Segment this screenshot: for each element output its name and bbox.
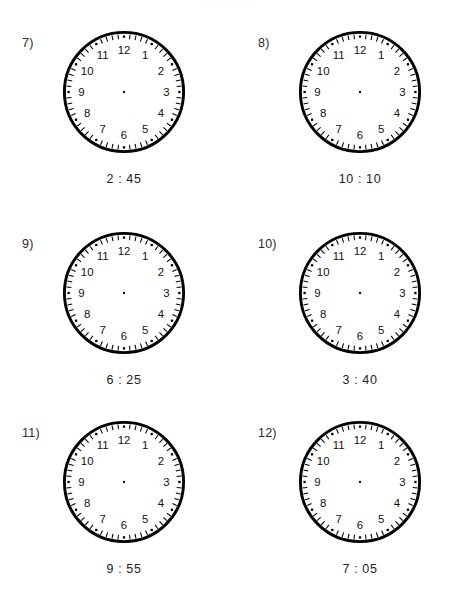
- minute-tick: [118, 425, 119, 430]
- clock-numeral-3: 3: [399, 86, 405, 98]
- clock-numeral-9: 9: [78, 476, 84, 488]
- clock-numeral-5: 5: [378, 513, 384, 525]
- clock-numeral-10: 10: [81, 455, 94, 467]
- minute-tick: [303, 476, 308, 477]
- clock-face-svg: 123456789101112: [294, 26, 426, 158]
- hour-dot: [407, 63, 409, 65]
- clock-numeral-1: 1: [142, 439, 148, 451]
- minute-tick: [413, 287, 418, 288]
- clock-numeral-2: 2: [394, 455, 400, 467]
- minute-tick: [118, 35, 119, 40]
- clock-numeral-10: 10: [317, 266, 330, 278]
- hour-dot: [303, 292, 305, 294]
- clock-numeral-8: 8: [84, 497, 90, 509]
- clock-numeral-1: 1: [378, 49, 384, 61]
- clock-center-dot: [123, 481, 125, 483]
- hour-dot: [387, 433, 389, 435]
- hour-dot: [123, 236, 125, 238]
- hour-dot: [178, 91, 180, 93]
- clock-face-svg: 123456789101112: [294, 227, 426, 359]
- minute-tick: [177, 98, 182, 99]
- minute-tick: [303, 287, 308, 288]
- problem-item: 7) 123456789101112 2 : 45: [8, 14, 238, 210]
- hour-dot: [387, 244, 389, 246]
- clock-numeral-8: 8: [84, 107, 90, 119]
- time-label: 9 : 55: [8, 562, 240, 576]
- hour-dot: [311, 264, 313, 266]
- minute-tick: [118, 346, 119, 351]
- hour-dot: [123, 35, 125, 37]
- hour-dot: [171, 264, 173, 266]
- hour-dot: [123, 146, 125, 148]
- hour-dot: [407, 453, 409, 455]
- clock-face[interactable]: 123456789101112: [294, 227, 426, 359]
- hour-dot: [151, 244, 153, 246]
- minute-tick: [130, 535, 131, 540]
- hour-dot: [151, 139, 153, 141]
- clock-numeral-1: 1: [378, 250, 384, 262]
- clock-numeral-3: 3: [399, 476, 405, 488]
- minute-tick: [303, 98, 308, 99]
- minute-tick: [67, 98, 72, 99]
- hour-dot: [331, 340, 333, 342]
- hour-dot: [407, 264, 409, 266]
- hour-dot: [359, 236, 361, 238]
- hour-dot: [303, 91, 305, 93]
- clock-face[interactable]: 123456789101112: [58, 26, 190, 158]
- hour-dot: [407, 320, 409, 322]
- clock-numeral-10: 10: [317, 65, 330, 77]
- minute-tick: [366, 236, 367, 241]
- hour-dot: [414, 91, 416, 93]
- clock-numeral-12: 12: [118, 434, 131, 446]
- hour-dot: [151, 43, 153, 45]
- clock-numeral-6: 6: [121, 330, 127, 342]
- clock-numeral-12: 12: [118, 44, 131, 56]
- minute-tick: [366, 35, 367, 40]
- hour-dot: [407, 509, 409, 511]
- hour-dot: [95, 433, 97, 435]
- clock-numeral-2: 2: [158, 266, 164, 278]
- minute-tick: [177, 476, 182, 477]
- problem-item: 11) 123456789101112 9 : 55: [8, 404, 238, 600]
- hour-dot: [171, 509, 173, 511]
- clock-numeral-9: 9: [314, 287, 320, 299]
- hour-dot: [95, 340, 97, 342]
- problem-number: 10): [258, 237, 277, 251]
- minute-tick: [303, 86, 308, 87]
- minute-tick: [130, 425, 131, 430]
- clock-numeral-11: 11: [97, 49, 109, 61]
- clock-numeral-4: 4: [158, 497, 164, 509]
- hour-dot: [359, 536, 361, 538]
- clock-numeral-11: 11: [97, 439, 109, 451]
- hour-dot: [171, 320, 173, 322]
- time-label: 10 : 10: [244, 172, 460, 186]
- hour-dot: [414, 292, 416, 294]
- minute-tick: [354, 236, 355, 241]
- problem-number: 9): [22, 237, 34, 251]
- problem-number: 8): [258, 36, 270, 50]
- minute-tick: [354, 535, 355, 540]
- minute-tick: [413, 86, 418, 87]
- minute-tick: [118, 535, 119, 540]
- clock-face-svg: 123456789101112: [58, 227, 190, 359]
- hour-dot: [67, 481, 69, 483]
- clock-face[interactable]: 123456789101112: [294, 416, 426, 548]
- clock-numeral-8: 8: [320, 308, 326, 320]
- clock-numeral-4: 4: [158, 107, 164, 119]
- hour-dot: [387, 340, 389, 342]
- hour-dot: [67, 292, 69, 294]
- clock-face[interactable]: 123456789101112: [294, 26, 426, 158]
- problem-number: 7): [22, 36, 34, 50]
- clock-face[interactable]: 123456789101112: [58, 227, 190, 359]
- problem-number: 11): [22, 426, 40, 440]
- clock-face[interactable]: 123456789101112: [58, 416, 190, 548]
- problem-item: 10) 123456789101112 3 : 40: [244, 215, 460, 411]
- hour-dot: [303, 481, 305, 483]
- clock-numeral-2: 2: [394, 266, 400, 278]
- hour-dot: [95, 529, 97, 531]
- clock-numeral-10: 10: [81, 65, 94, 77]
- minute-tick: [177, 488, 182, 489]
- time-label: 2 : 45: [8, 172, 240, 186]
- minute-tick: [413, 299, 418, 300]
- minute-tick: [366, 346, 367, 351]
